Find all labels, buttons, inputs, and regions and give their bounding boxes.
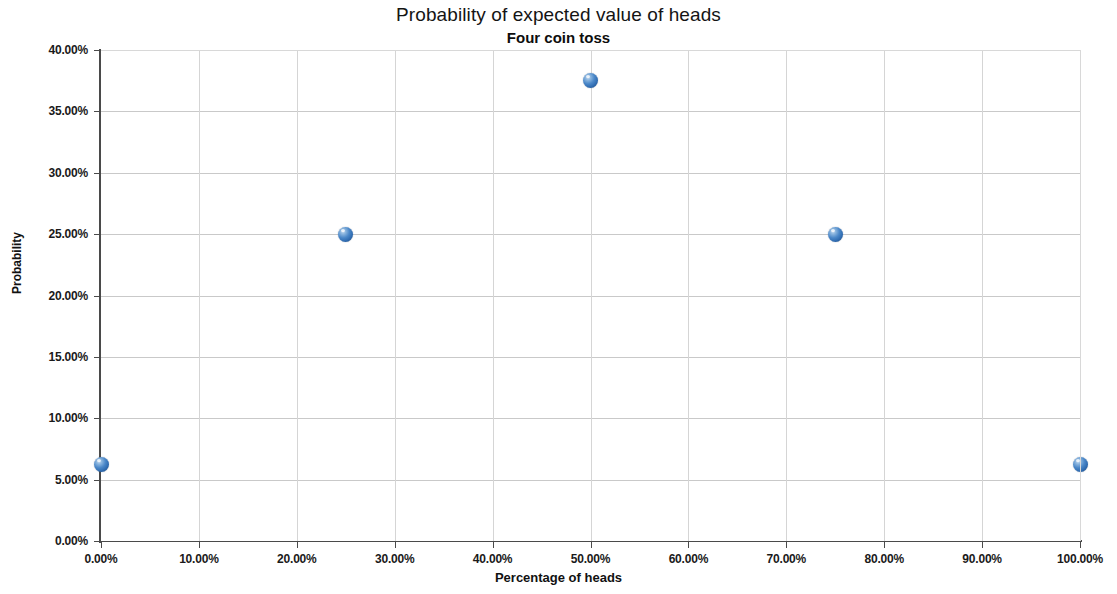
y-axis-tick — [94, 480, 101, 481]
gridline-vertical — [688, 50, 689, 541]
x-axis-tick-label: 50.00% — [536, 552, 646, 566]
y-axis-tick-label: 35.00% — [6, 104, 88, 118]
gridline-vertical — [493, 50, 494, 541]
plot-frame-top — [101, 50, 1080, 51]
x-axis-tick — [884, 541, 885, 548]
gridline-vertical — [786, 50, 787, 541]
y-axis-tick — [94, 50, 101, 51]
x-axis-tick-label: 100.00% — [1025, 552, 1117, 566]
y-axis-tick-label: 40.00% — [6, 43, 88, 57]
y-axis-tick-label: 25.00% — [6, 227, 88, 241]
x-axis-tick — [199, 541, 200, 548]
plot-frame-right — [1080, 50, 1081, 541]
data-point-marker — [828, 227, 843, 242]
y-axis-tick — [94, 541, 101, 542]
gridline-vertical — [982, 50, 983, 541]
gridline-vertical — [199, 50, 200, 541]
x-axis-title: Percentage of heads — [0, 570, 1117, 585]
y-axis-tick-label: 5.00% — [6, 473, 88, 487]
plot-area — [101, 50, 1080, 541]
y-axis-tick — [94, 111, 101, 112]
x-axis-tick-label: 20.00% — [242, 552, 352, 566]
x-axis-tick-label: 10.00% — [144, 552, 254, 566]
y-axis-tick-label: 0.00% — [6, 534, 88, 548]
y-axis-tick — [94, 357, 101, 358]
y-axis-tick — [94, 296, 101, 297]
x-axis-tick-label: 80.00% — [829, 552, 939, 566]
y-axis-tick-label: 20.00% — [6, 289, 88, 303]
x-axis-tick — [395, 541, 396, 548]
y-axis-tick — [94, 234, 101, 235]
x-axis-tick-label: 60.00% — [633, 552, 743, 566]
y-axis-tick-label: 30.00% — [6, 166, 88, 180]
x-axis-tick-label: 90.00% — [927, 552, 1037, 566]
x-axis-tick — [297, 541, 298, 548]
x-axis-tick — [493, 541, 494, 548]
data-point-marker — [94, 457, 109, 472]
chart-subtitle: Four coin toss — [0, 29, 1117, 46]
x-axis-tick-label: 70.00% — [731, 552, 841, 566]
gridline-vertical — [395, 50, 396, 541]
data-point-marker — [338, 227, 353, 242]
x-axis-tick — [101, 541, 102, 548]
gridline-vertical — [297, 50, 298, 541]
chart-container: Probability of expected value of heads F… — [0, 0, 1117, 594]
x-axis-tick-label: 40.00% — [438, 552, 548, 566]
y-axis-tick — [94, 418, 101, 419]
data-point-marker — [583, 73, 598, 88]
x-axis-tick — [786, 541, 787, 548]
x-axis-tick — [1080, 541, 1081, 548]
x-axis-tick-label: 0.00% — [46, 552, 156, 566]
gridline-vertical — [884, 50, 885, 541]
chart-title: Probability of expected value of heads — [0, 4, 1117, 26]
gridline-vertical — [591, 50, 592, 541]
y-axis-tick-label: 15.00% — [6, 350, 88, 364]
x-axis-tick — [688, 541, 689, 548]
x-axis-tick — [982, 541, 983, 548]
x-axis-tick — [591, 541, 592, 548]
x-axis-tick-label: 30.00% — [340, 552, 450, 566]
y-axis-tick — [94, 173, 101, 174]
y-axis-tick-label: 10.00% — [6, 411, 88, 425]
